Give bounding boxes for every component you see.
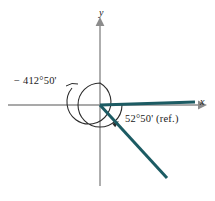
y-axis-label: y bbox=[99, 8, 103, 18]
negative-angle-label: − 412°50' bbox=[14, 76, 57, 87]
negative-angle-leader-line bbox=[66, 83, 78, 86]
reference-angle-label: 52°50' (ref.) bbox=[125, 114, 179, 125]
y-axis-arrowhead bbox=[96, 17, 105, 26]
x-axis-label: x bbox=[200, 97, 204, 107]
angle-diagram: − 412°50' 52°50' (ref.) y x bbox=[0, 0, 215, 201]
diagram-canvas bbox=[0, 0, 215, 201]
y-axis bbox=[96, 17, 105, 186]
